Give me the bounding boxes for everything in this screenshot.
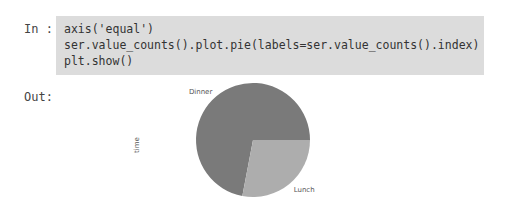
pie-label-dinner: Dinner (189, 88, 213, 96)
pie-label-lunch: Lunch (294, 186, 315, 194)
y-axis-label: time (133, 137, 141, 153)
pie-chart: Dinner Lunch time (0, 0, 509, 214)
